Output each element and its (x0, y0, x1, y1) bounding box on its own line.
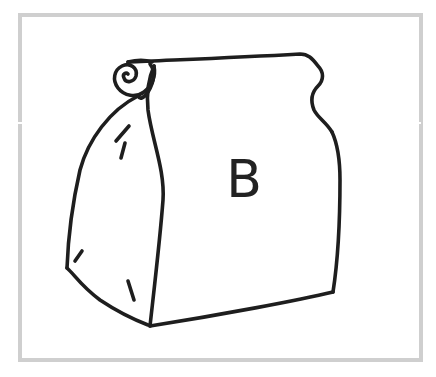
crease-mark-3 (75, 251, 82, 261)
crease-mark-2 (121, 143, 125, 158)
paper-bag-drawing (0, 0, 436, 377)
bag-right-edge (332, 132, 340, 292)
bag-top-edge (128, 54, 332, 132)
bag-label: B (226, 150, 262, 208)
bag-left-side-edge (67, 96, 138, 268)
bag-spiral-top (128, 61, 152, 63)
crease-mark-1 (116, 126, 129, 141)
bag-left-bottom-edge (67, 268, 148, 325)
crease-mark-4 (128, 281, 134, 300)
bag-center-fold (147, 66, 163, 326)
bag-bottom-edge (150, 292, 333, 326)
